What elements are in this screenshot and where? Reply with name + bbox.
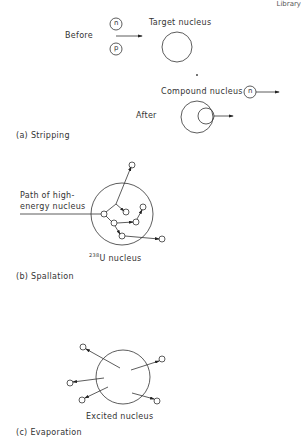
caption-spallation: (b) Spallation (16, 272, 74, 281)
diagram-canvas (0, 0, 301, 438)
u238-label: 238U nucleus (89, 252, 141, 263)
compound-nucleus-circle (181, 101, 213, 133)
path-label-line1: Path of high- (20, 191, 75, 200)
mass-number: 238 (89, 252, 99, 258)
compound-nucleus-label: Compound nucleus (161, 87, 243, 96)
proton-label: p (114, 44, 119, 52)
excited-nucleus-label: Excited nucleus (86, 412, 153, 421)
page-header-fragment: Library (277, 0, 301, 8)
before-label: Before (65, 31, 93, 40)
target-nucleus-circle (162, 32, 192, 62)
path-label-line2: energy nucleus (20, 202, 86, 211)
captured-proton-circle (198, 108, 214, 124)
after-label: After (136, 111, 157, 120)
caption-stripping: (a) Stripping (16, 131, 70, 140)
caption-evaporation: (c) Evaporation (16, 428, 82, 437)
neutron-label: n (114, 19, 119, 27)
emitted-neutron-label: n (248, 87, 253, 95)
target-nucleus-label: Target nucleus (149, 18, 211, 27)
